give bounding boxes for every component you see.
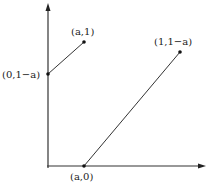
label-a-0: (a,0) bbox=[70, 171, 93, 182]
segment-lower bbox=[84, 52, 180, 166]
diagram-canvas: (0,1−a) (a,1) (1,1−a) (a,0) bbox=[0, 0, 211, 191]
segment-upper bbox=[48, 42, 84, 74]
point-a-1 bbox=[82, 40, 86, 44]
point-0-1-minus-a bbox=[46, 72, 50, 76]
point-1-1-minus-a bbox=[178, 50, 182, 54]
x-axis-arrowhead-icon bbox=[198, 164, 206, 169]
label-a-1: (a,1) bbox=[71, 26, 94, 37]
label-0-1-minus-a: (0,1−a) bbox=[2, 69, 40, 80]
label-1-1-minus-a: (1,1−a) bbox=[154, 36, 192, 47]
y-axis-arrowhead-icon bbox=[46, 3, 51, 11]
point-a-0 bbox=[82, 164, 86, 168]
